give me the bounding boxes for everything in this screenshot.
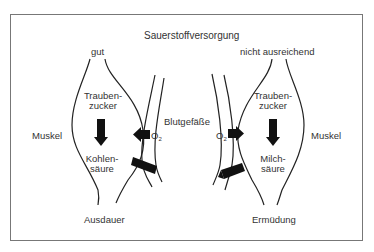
right-muscle-left-edge: [238, 59, 272, 205]
right-oxygen-label: O2: [216, 131, 227, 144]
left-muscle-left-edge: [72, 59, 99, 205]
left-tissue-label: Muskel: [32, 131, 62, 141]
right-tissue-label: Muskel: [311, 131, 341, 141]
right-oxygen-subscript: 2: [223, 136, 226, 142]
right-supply-label: nicht ausreichend: [240, 47, 314, 57]
title-label: Sauerstoffversorgung: [144, 31, 239, 41]
left-oxygen-label: O2: [151, 131, 162, 144]
right-output-line2: säure: [253, 164, 293, 174]
right-oxygen-arrow: [228, 126, 244, 141]
right-outflow-bar: [221, 163, 245, 179]
left-oxygen-arrow: [133, 127, 150, 142]
left-outcome-label: Ausdauer: [84, 215, 125, 225]
right-conversion-arrow: [266, 119, 280, 146]
left-supply-label: gut: [91, 47, 104, 57]
left-oxygen-subscript: 2: [158, 136, 161, 142]
left-conversion-arrow: [94, 119, 108, 146]
right-outcome-label: Ermüdung: [252, 215, 296, 225]
right-muscle-right-edge: [277, 59, 304, 205]
left-output-line2: säure: [82, 164, 122, 174]
left-input-line2: zucker: [83, 101, 123, 111]
right-input-line2: zucker: [253, 101, 293, 111]
left-input-label: Trauben- zucker: [83, 91, 123, 111]
right-output-label: Milch- säure: [253, 154, 293, 174]
right-input-label: Trauben- zucker: [253, 91, 293, 111]
left-output-label: Kohlen- säure: [82, 154, 122, 174]
vessel-label: Blutgefäße: [164, 117, 210, 127]
